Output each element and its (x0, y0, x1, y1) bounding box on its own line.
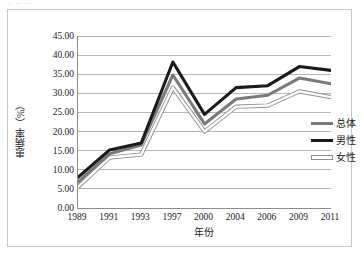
y-axis-title: 患病率（%） (13, 74, 29, 184)
plot-area (77, 36, 331, 209)
legend-label: 女性 (336, 152, 356, 163)
x-tick-label: 1997 (162, 211, 181, 223)
legend-swatch-icon (311, 136, 333, 146)
x-tick-label: 2006 (257, 211, 276, 223)
series-line (78, 62, 331, 177)
chart-frame: 患病率（%） 45.0040.0035.0030.0025.0020.0015.… (7, 9, 352, 247)
x-tick-label: 1991 (99, 211, 118, 223)
y-tick-label: 5.00 (30, 184, 74, 194)
legend-item[interactable]: 女性 (311, 149, 361, 166)
x-tick-label: 1993 (131, 211, 150, 223)
legend-swatch-icon (311, 119, 333, 129)
legend-swatch-icon (311, 153, 333, 163)
legend-item[interactable]: 男性 (311, 132, 361, 149)
legend-label: 男性 (336, 135, 356, 146)
y-tick-label: 45.00 (30, 31, 74, 41)
y-tick-label: 10.00 (30, 165, 74, 175)
chart-legend: 总体男性女性 (311, 115, 361, 166)
y-tick-label: 40.00 (30, 50, 74, 60)
line-chart-svg (78, 36, 331, 208)
series-line (78, 88, 331, 187)
y-tick-label: 35.00 (30, 69, 74, 79)
x-tick-label: 2009 (289, 211, 308, 223)
y-tick-label: 20.00 (30, 127, 74, 137)
y-tick-label: 25.00 (30, 107, 74, 117)
legend-label: 总体 (336, 118, 356, 129)
x-tick-label: 2011 (321, 211, 340, 223)
clipped-caption-fragment: — — — (6, 0, 66, 7)
y-axis-tick-labels: 45.0040.0035.0030.0025.0020.0015.0010.00… (30, 30, 74, 214)
y-tick-label: 15.00 (30, 146, 74, 156)
figure-root: — — — 患病率（%） 45.0040.0035.0030.0025.0020… (0, 0, 361, 259)
y-tick-label: 30.00 (30, 88, 74, 98)
x-axis-title: 年份 (77, 224, 330, 239)
legend-item[interactable]: 总体 (311, 115, 361, 132)
series-line-outline (78, 88, 331, 187)
x-tick-label: 2004 (226, 211, 245, 223)
x-axis-tick-labels: 198919911993199720002004200620092011 (77, 211, 330, 225)
x-tick-label: 2000 (194, 211, 213, 223)
x-tick-label: 1989 (68, 211, 87, 223)
